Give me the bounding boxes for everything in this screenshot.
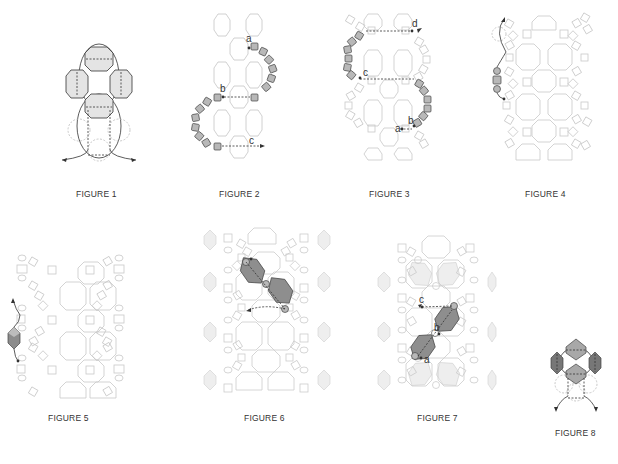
label-a: a: [246, 33, 252, 44]
label-b: b: [408, 115, 414, 126]
figure-5-caption: FIGURE 5: [48, 413, 89, 423]
figure-1-diagram: [0, 0, 160, 210]
figure-2-diagram: a b c: [180, 0, 330, 210]
figure-1-caption: FIGURE 1: [76, 189, 117, 199]
figure-7: a b c FIGURE 7: [340, 220, 490, 464]
faded-lattice: [224, 228, 308, 392]
figure-6-caption: FIGURE 6: [244, 413, 285, 423]
figure-6-diagram: [190, 220, 340, 464]
figure-5-diagram: [0, 220, 180, 464]
figure-2: a b c FIGURE 2: [180, 0, 330, 210]
faded-lattice: [17, 255, 124, 398]
label-a: a: [424, 354, 430, 365]
figure-4: FIGURE 4: [470, 0, 618, 210]
figure-7-caption: FIGURE 7: [417, 413, 458, 423]
figure-8-diagram: [500, 300, 618, 464]
label-b: b: [434, 322, 440, 333]
new-beads: [493, 68, 501, 93]
figure-7-diagram: a b c: [340, 220, 490, 464]
figure-8: FIGURE 8: [500, 300, 618, 464]
seed-beads: [191, 43, 277, 150]
figure-3-diagram: a b c d: [330, 0, 480, 210]
label-b: b: [220, 83, 226, 94]
label-c: c: [363, 67, 368, 78]
bead-octagons: [66, 47, 132, 118]
figure-2-caption: FIGURE 2: [219, 189, 260, 199]
figure-5: FIGURE 5: [0, 220, 180, 464]
faded-bicones: [204, 230, 330, 390]
label-a: a: [395, 123, 401, 134]
figure-6: FIGURE 6: [190, 220, 340, 464]
figure-8-caption: FIGURE 8: [555, 428, 596, 438]
faded-octagons: [503, 13, 592, 160]
faded-lattice: [398, 236, 478, 389]
figure-1: FIGURE 1: [0, 0, 160, 210]
figure-3-caption: FIGURE 3: [369, 189, 410, 199]
figure-3: a b c d FIGURE 3: [330, 0, 480, 210]
label-c: c: [249, 135, 254, 146]
figure-4-caption: FIGURE 4: [525, 189, 566, 199]
label-d: d: [412, 18, 418, 29]
figure-4-diagram: [470, 0, 618, 210]
bicone-bead: [8, 327, 20, 349]
label-c: c: [419, 294, 424, 305]
